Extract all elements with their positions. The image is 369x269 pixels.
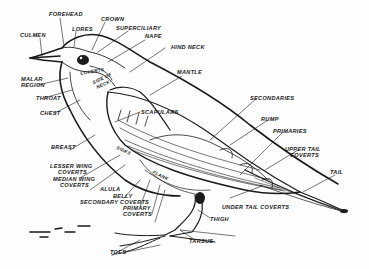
label-tarsus: TARSUS — [189, 238, 213, 244]
label-median-wing-coverts-2: COVERTS — [60, 182, 89, 188]
label-alula: ALULA — [100, 186, 120, 192]
label-culmen: CULMEN — [20, 32, 46, 38]
label-breast: BREAST — [51, 144, 76, 150]
bird-illustration — [0, 0, 369, 269]
label-primaries: PRIMARIES — [273, 128, 307, 134]
label-primary-coverts-2: COVERTS — [123, 211, 152, 217]
label-mantle: MANTLE — [177, 69, 202, 75]
label-toes: TOES — [110, 249, 126, 255]
label-forehead: FOREHEAD — [49, 11, 83, 17]
label-lores: LORES — [72, 26, 93, 32]
label-nape: NAPE — [145, 33, 162, 39]
label-thigh: THIGH — [210, 216, 229, 222]
label-superciliary: SUPERCILIARY — [116, 25, 161, 31]
label-secondaries: SECONDARIES — [250, 95, 294, 101]
label-under-tail-coverts: UNDER TAIL COVERTS — [222, 204, 289, 210]
label-rump: RUMP — [261, 116, 279, 122]
label-tail: TAIL — [330, 169, 343, 175]
label-crown: CROWN — [101, 16, 124, 22]
label-chest: CHEST — [40, 110, 60, 116]
label-upper-tail-coverts-2: COVERTS — [290, 152, 319, 158]
label-scapulars: SCAPULARS — [141, 109, 179, 115]
eye — [77, 55, 89, 65]
bird-topography-diagram: FOREHEAD LORES CROWN CULMEN SUPERCILIARY… — [0, 0, 369, 269]
label-lesser-wing-coverts-2: COVERTS — [58, 169, 87, 175]
label-throat: THROAT — [36, 95, 61, 101]
label-hind-neck: HIND NECK — [171, 44, 205, 50]
label-malar-region-2: REGION — [21, 82, 45, 88]
